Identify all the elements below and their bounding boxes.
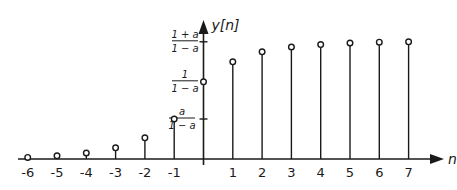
y-tick-label-numerator: 1 <box>182 69 188 80</box>
stem-marker <box>230 59 236 65</box>
x-axis-label: n <box>448 151 457 167</box>
stem-marker <box>289 44 295 50</box>
plot-canvas: ny[n]a1 − a11 − a1 + a1 − a-6-5-4-3-2-11… <box>0 0 457 190</box>
stem-marker <box>113 145 119 151</box>
x-tick-label: -6 <box>21 165 34 180</box>
stem-plot: ny[n]a1 − a11 − a1 + a1 − a-6-5-4-3-2-11… <box>0 0 457 190</box>
y-tick-label-numerator: a <box>179 106 185 117</box>
stem-marker <box>259 49 265 55</box>
x-tick-label: 4 <box>317 165 325 180</box>
stem-marker <box>201 79 207 85</box>
stem-marker <box>377 39 383 45</box>
x-tick-label: 5 <box>346 165 354 180</box>
x-axis-arrow-icon <box>430 154 444 164</box>
x-tick-label: -2 <box>138 165 151 180</box>
x-tick-label: -3 <box>109 165 122 180</box>
stem-marker <box>347 40 353 46</box>
x-tick-label: 7 <box>404 165 412 180</box>
x-tick-label: 1 <box>229 165 237 180</box>
x-tick-label: 2 <box>258 165 266 180</box>
x-tick-label: -1 <box>168 165 181 180</box>
y-tick-label-denominator: 1 − a <box>171 83 198 94</box>
stem-marker <box>318 42 324 48</box>
stem-marker <box>54 153 60 159</box>
stem-marker <box>84 150 90 156</box>
x-tick-label: -5 <box>51 165 64 180</box>
y-axis-arrow-icon <box>199 20 209 34</box>
stem-marker <box>25 155 31 161</box>
stem-marker <box>142 135 148 141</box>
x-tick-label: -4 <box>80 165 93 180</box>
stem-marker <box>171 116 177 122</box>
x-tick-label: 3 <box>287 165 295 180</box>
y-tick-label-numerator: 1 + a <box>171 29 198 40</box>
y-tick-label-denominator: 1 − a <box>171 43 198 54</box>
x-tick-label: 6 <box>375 165 383 180</box>
stem-marker <box>406 39 412 45</box>
y-axis-label: y[n] <box>211 17 240 33</box>
